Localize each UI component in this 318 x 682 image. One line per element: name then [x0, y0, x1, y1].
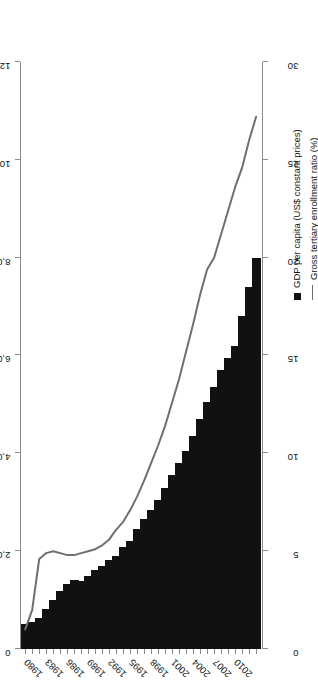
legend-bar-label: GDP per capita (US$ constant prices) — [291, 129, 302, 288]
legend-bar-swatch — [294, 293, 301, 300]
legend-line-swatch — [312, 285, 313, 300]
rotated-chart-canvas: 02,0004,0006,0008,00010,00012,0000510152… — [0, 0, 318, 682]
legend-line-label: Gross tertiary enrollment ratio (%) — [308, 137, 318, 280]
legend-entry-gdp: GDP per capita (US$ constant prices) — [291, 129, 302, 300]
legend-entry-enrollment: Gross tertiary enrollment ratio (%) — [308, 137, 318, 300]
enrollment-line — [0, 0, 318, 682]
chart-figure: 02,0004,0006,0008,00010,00012,0000510152… — [0, 0, 318, 682]
plot-area: 02,0004,0006,0008,00010,00012,0000510152… — [0, 0, 318, 682]
